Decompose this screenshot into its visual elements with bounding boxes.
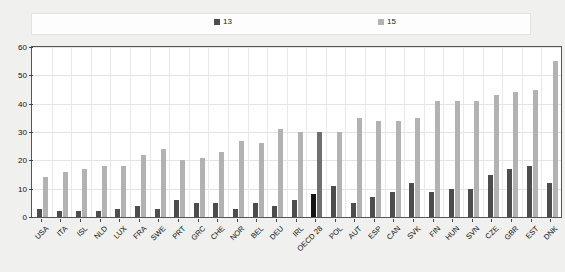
legend-item-15: 15 [378,18,396,26]
y-axis-tick-label: 20 [18,156,27,165]
bar-13 [57,211,62,217]
bar-15 [337,132,342,217]
x-axis-tick-mark [315,219,316,222]
bar-15 [455,101,460,217]
bar-group [194,47,206,217]
x-axis-tick-mark [550,219,551,222]
bar-chart: 13 15 0102030405060 USAITAISLNLDLUXFRASW… [0,0,565,272]
y-axis-tick-label: 30 [18,128,27,137]
bar-13 [155,209,160,218]
bar-15 [357,118,362,217]
legend-swatch-13 [214,19,220,25]
bar-group [115,47,127,217]
bar-15 [494,95,499,217]
x-axis-tick-label: FIN [427,224,442,239]
bar-15 [121,166,126,217]
x-axis-tick-mark [276,219,277,222]
bar-13 [390,192,395,218]
x-axis-tick-label: ISL [75,224,89,238]
x-axis-tick-mark [237,219,238,222]
plot-area: 0102030405060 [31,46,562,218]
bar-15 [239,141,244,218]
bar-group [409,47,421,217]
bar-13 [272,206,277,217]
x-axis-tick-mark [100,219,101,222]
x-axis-tick-label: NOR [228,224,246,242]
bar-15 [278,129,283,217]
bar-13 [331,186,336,217]
bar-group [76,47,88,217]
bar-13 [174,200,179,217]
bar-group [331,47,343,217]
bar-13 [76,211,81,217]
bar-13 [351,203,356,217]
bar-15 [396,121,401,217]
bar-13 [311,194,316,217]
x-axis-tick-mark [511,219,512,222]
bar-15 [82,169,87,217]
x-axis-tick-label: POL [327,224,344,241]
bar-13 [37,209,42,218]
x-axis-tick-mark [491,219,492,222]
x-axis-tick-label: BEL [249,224,265,240]
x-axis-tick-label: SVN [464,224,481,241]
bar-group [253,47,265,217]
bar-15 [376,121,381,217]
x-axis-tick-mark [80,219,81,222]
x-axis-tick-label: ITA [56,224,70,238]
legend-label-15: 15 [387,18,396,26]
x-axis-tick-mark [60,219,61,222]
legend-item-13: 13 [214,18,232,26]
y-axis-tick-label: 0 [23,213,27,222]
bar-15 [553,61,558,217]
bar-15 [415,118,420,217]
bar-13 [96,211,101,217]
x-axis-tick-label: HUN [444,224,462,242]
bar-group [390,47,402,217]
legend-swatch-15 [378,19,384,25]
chart-legend: 13 15 [31,13,531,35]
x-axis-tick-mark [452,219,453,222]
x-axis-tick-label: USA [33,224,50,241]
x-axis-tick-label: GBR [503,224,521,242]
bar-15 [513,92,518,217]
y-axis-tick-label: 50 [18,71,27,80]
bar-15 [533,90,538,218]
x-axis-tick-mark [178,219,179,222]
bar-group [37,47,49,217]
y-axis-tick-mark [29,217,33,218]
bar-group [429,47,441,217]
bar-13 [213,203,218,217]
bar-15 [435,101,440,217]
bar-15 [102,166,107,217]
y-axis-tick-label: 60 [18,43,27,52]
bar-group [311,47,323,217]
bar-13 [194,203,199,217]
x-axis-tick-mark [217,219,218,222]
x-axis-tick-mark [433,219,434,222]
bar-group [96,47,108,217]
bar-group [351,47,363,217]
bar-13 [507,169,512,217]
x-axis-tick-mark [198,219,199,222]
x-axis-tick-label: LUX [112,224,129,241]
bar-group [488,47,500,217]
x-axis-tick-mark [41,219,42,222]
bar-15 [63,172,68,217]
bar-group [272,47,284,217]
bar-group [468,47,480,217]
x-axis-tick-label: PRT [170,224,187,241]
y-axis-tick-label: 10 [18,184,27,193]
x-axis-tick-label: CHE [209,224,227,242]
bar-15 [298,132,303,217]
bar-13 [488,175,493,218]
bar-13 [429,192,434,218]
bar-group [547,47,559,217]
bar-15 [259,143,264,217]
bar-group [135,47,147,217]
x-axis-tick-label: FRA [131,224,148,241]
x-axis-tick-label: GRC [189,224,207,242]
bar-13 [115,209,120,218]
x-axis-tick-label: ESP [366,224,383,241]
bar-13 [292,200,297,217]
